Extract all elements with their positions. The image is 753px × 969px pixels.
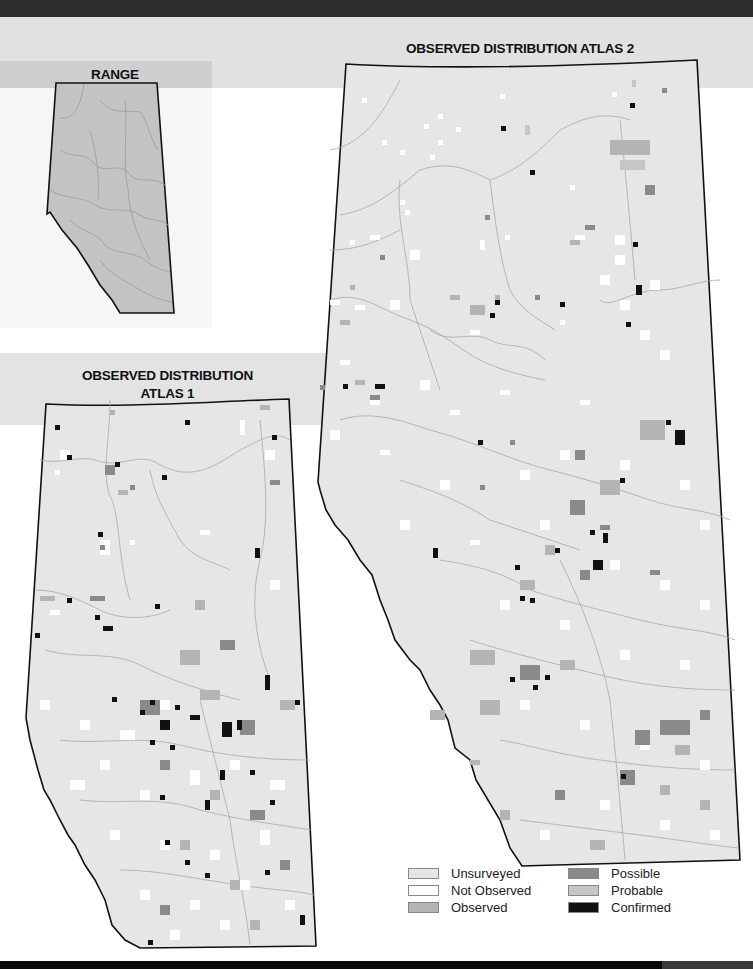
range-map [47,83,174,313]
confirmed-swatch-icon [568,902,599,913]
unsurveyed-swatch-icon [408,868,439,879]
legend-label: Confirmed [611,900,671,915]
legend-item-unsurveyed: Unsurveyed [408,866,520,881]
legend-label: Observed [451,900,507,915]
legend-label: Not Observed [451,883,531,898]
legend-item-confirmed: Confirmed [568,900,671,915]
observed-swatch-icon [408,902,439,913]
legend-label: Unsurveyed [451,866,520,881]
bottom-bar-right [662,961,753,969]
legend-label: Probable [611,883,663,898]
legend-item-not-observed: Not Observed [408,883,531,898]
legend-item-observed: Observed [408,900,507,915]
legend: Unsurveyed Not Observed Observed Possibl… [408,866,708,916]
not-observed-swatch-icon [408,885,439,896]
legend-item-probable: Probable [568,883,663,898]
legend-item-possible: Possible [568,866,660,881]
probable-swatch-icon [568,885,599,896]
legend-label: Possible [611,866,660,881]
possible-swatch-icon [568,868,599,879]
bottom-bar [0,961,753,969]
maps-canvas [0,0,753,969]
